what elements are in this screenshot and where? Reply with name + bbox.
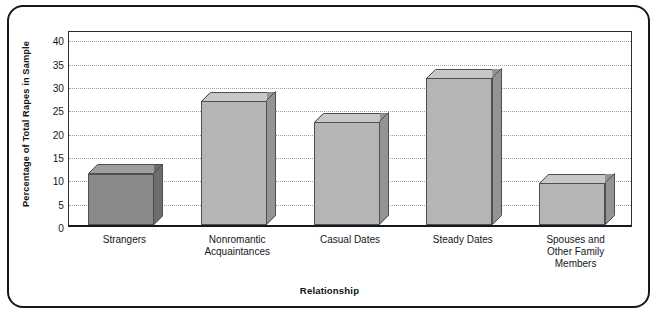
- bar-front-face: [88, 174, 154, 225]
- bar-side-outline: [266, 91, 276, 225]
- y-tick-label: 20: [53, 129, 64, 140]
- gridline: [69, 65, 631, 66]
- bar-front-face: [314, 122, 380, 225]
- y-tick-label: 35: [53, 59, 64, 70]
- x-tick-label: Casual Dates: [294, 234, 407, 246]
- bar-front-face: [539, 183, 605, 225]
- bar-top-outline: [201, 92, 276, 102]
- bar-side-outline: [605, 173, 615, 225]
- bar-side-outline: [379, 112, 389, 225]
- gridline: [69, 41, 631, 42]
- y-tick-label: 30: [53, 83, 64, 94]
- bar-side-outline: [153, 164, 163, 225]
- bar: [88, 165, 163, 225]
- bar: [201, 92, 276, 225]
- y-tick-label: 15: [53, 153, 64, 164]
- bar-side-outline: [492, 68, 502, 225]
- x-tick-label: Steady Dates: [406, 234, 519, 246]
- bar-top-outline: [539, 174, 614, 184]
- y-tick-label: 25: [53, 106, 64, 117]
- bar-top-outline: [314, 113, 389, 123]
- figure-container: Percentage of Total Rapes in Sample 0510…: [0, 0, 659, 318]
- bar: [426, 69, 501, 225]
- bar-top-outline: [426, 69, 501, 79]
- plot-area: 0510152025303540: [68, 31, 632, 227]
- y-axis-title: Percentage of Total Rapes in Sample: [21, 24, 31, 224]
- x-tick-label: Spouses and Other Family Members: [519, 234, 632, 271]
- y-tick-label: 0: [58, 223, 64, 234]
- bar-chart: Percentage of Total Rapes in Sample 0510…: [0, 0, 659, 318]
- bar-front-face: [201, 101, 267, 225]
- bar-top-outline: [88, 164, 163, 174]
- y-tick-label: 5: [58, 199, 64, 210]
- y-tick-label: 40: [53, 36, 64, 47]
- x-tick-label: Strangers: [68, 234, 181, 246]
- x-tick-label: Nonromantic Acquaintances: [181, 234, 294, 258]
- bar: [314, 113, 389, 225]
- y-tick-label: 10: [53, 176, 64, 187]
- x-axis-title: Relationship: [0, 285, 659, 296]
- bar-front-face: [426, 78, 492, 225]
- gridline: [69, 88, 631, 89]
- bar: [539, 174, 614, 225]
